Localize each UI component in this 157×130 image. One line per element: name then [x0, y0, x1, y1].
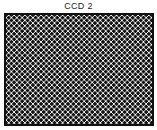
ccd-sensor-grid — [4, 13, 154, 126]
ccd-label: CCD 2 — [0, 1, 157, 11]
